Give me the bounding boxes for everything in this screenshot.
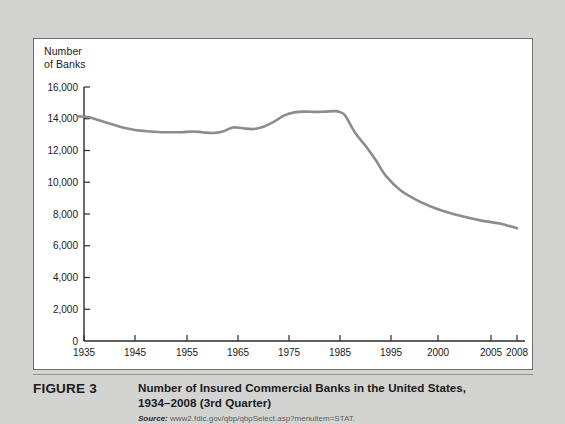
svg-text:2,000: 2,000 bbox=[53, 304, 78, 315]
figure-source: Source: www2.fdic.gov/qbp/qbpSelect.asp?… bbox=[138, 414, 538, 424]
svg-text:14,000: 14,000 bbox=[47, 113, 78, 124]
source-label: Source: bbox=[138, 414, 168, 423]
svg-text:1985: 1985 bbox=[329, 347, 352, 358]
svg-text:10,000: 10,000 bbox=[47, 177, 78, 188]
svg-text:2005: 2005 bbox=[480, 347, 503, 358]
source-url: www2.fdic.gov/qbp/qbpSelect.asp?menuitem… bbox=[170, 414, 355, 423]
svg-text:2008: 2008 bbox=[506, 347, 529, 358]
svg-text:4,000: 4,000 bbox=[53, 272, 78, 283]
svg-text:1995: 1995 bbox=[380, 347, 403, 358]
svg-text:6,000: 6,000 bbox=[53, 240, 78, 251]
data-series-line bbox=[79, 111, 517, 228]
svg-text:1975: 1975 bbox=[278, 347, 301, 358]
svg-text:1935: 1935 bbox=[73, 347, 96, 358]
line-chart: 02,0004,0006,0008,00010,00012,00014,0001… bbox=[34, 39, 534, 371]
figure-caption: FIGURE 3 Number of Insured Commercial Ba… bbox=[33, 374, 538, 424]
svg-text:1955: 1955 bbox=[176, 347, 199, 358]
svg-text:1965: 1965 bbox=[227, 347, 250, 358]
svg-text:12,000: 12,000 bbox=[47, 145, 78, 156]
svg-text:1945: 1945 bbox=[124, 347, 147, 358]
figure-title: Number of Insured Commercial Banks in th… bbox=[138, 381, 538, 410]
svg-text:8,000: 8,000 bbox=[53, 209, 78, 220]
figure-number: FIGURE 3 bbox=[33, 381, 138, 396]
svg-text:16,000: 16,000 bbox=[47, 82, 78, 93]
caption-divider bbox=[33, 374, 533, 375]
svg-text:2000: 2000 bbox=[427, 347, 450, 358]
chart-panel: Number of Banks 02,0004,0006,0008,00010,… bbox=[33, 38, 533, 370]
svg-text:0: 0 bbox=[72, 336, 78, 347]
